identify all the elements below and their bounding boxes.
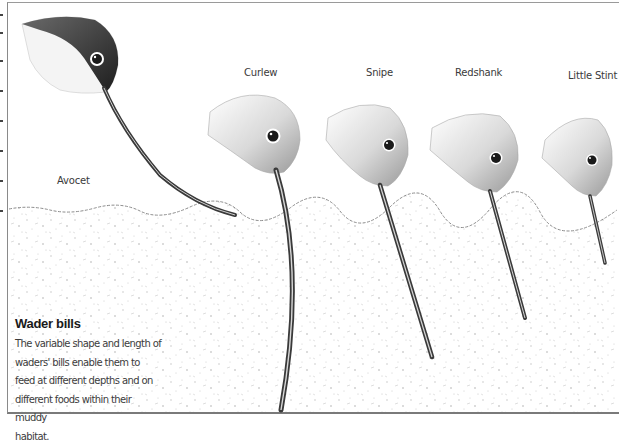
caption-line: different foods within their muddy (15, 394, 131, 424)
label-redshank: Redshank (455, 67, 502, 78)
caption-body: The variable shape and length of waders'… (15, 335, 165, 444)
figure-title: Wader bills (15, 316, 165, 331)
label-avocet: Avocet (57, 175, 90, 186)
label-snipe: Snipe (366, 67, 393, 78)
label-curlew: Curlew (244, 67, 277, 78)
figure-caption: Wader bills The variable shape and lengt… (15, 316, 165, 444)
caption-line: waders' bills enable them to (15, 357, 140, 368)
caption-line: feed at different depths and on (15, 375, 153, 386)
label-little-stint: Little Stint (568, 70, 617, 81)
caption-line: The variable shape and length of (15, 338, 161, 349)
caption-line: habitat. (15, 431, 49, 442)
avocet-illustration (22, 17, 235, 215)
